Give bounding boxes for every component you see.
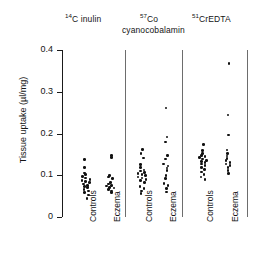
scatter-column-inulin-eczema — [110, 50, 111, 217]
data-point — [162, 163, 165, 166]
y-axis-tick-0.1 — [57, 175, 62, 176]
scatter-column-cyanocobalamin-controls — [142, 50, 143, 217]
data-point — [225, 159, 228, 162]
data-point — [113, 187, 116, 190]
data-point — [164, 177, 167, 180]
y-axis-tick-label-0: 0 — [23, 212, 53, 221]
data-point — [139, 179, 142, 182]
data-point — [227, 172, 230, 175]
data-point — [83, 191, 86, 194]
scatter-chart-figure: 14C inulin 57Co cyanocobalamin 51CrEDTA … — [0, 0, 260, 268]
data-point — [83, 188, 86, 191]
data-point — [164, 141, 167, 144]
scatter-column-cyanocobalamin-eczema — [166, 50, 167, 217]
x-axis-label-cyanocobalamin-eczema: Eczema — [169, 191, 178, 222]
data-point — [228, 62, 231, 65]
x-axis-label-inulin-eczema: Eczema — [113, 191, 122, 222]
x-axis-label-credta-eczema: Eczema — [231, 191, 240, 222]
data-point — [141, 148, 144, 151]
data-point — [140, 152, 143, 155]
group-separator-3 — [247, 50, 248, 217]
data-point — [198, 156, 201, 159]
data-point — [142, 157, 145, 160]
data-point — [165, 107, 168, 110]
group-header-credta-label: CrEDTA — [199, 14, 231, 24]
data-point — [227, 114, 230, 117]
x-axis-label-cyanocobalamin-controls: Controls — [145, 190, 154, 222]
data-point — [204, 155, 207, 158]
data-point — [105, 185, 108, 188]
data-point — [166, 136, 169, 139]
data-point — [143, 171, 146, 174]
data-point — [84, 173, 87, 176]
data-point — [203, 173, 206, 176]
scatter-column-inulin-controls — [86, 50, 87, 217]
group-header-credta: 51CrEDTA — [192, 14, 231, 24]
data-point — [83, 166, 86, 169]
data-point — [143, 181, 146, 184]
data-point — [86, 186, 89, 189]
data-point — [225, 163, 228, 166]
data-point — [226, 149, 229, 152]
scatter-column-credta-eczema — [228, 50, 229, 217]
data-point — [203, 168, 206, 171]
data-point — [140, 192, 143, 195]
y-axis-tick-0.4 — [57, 50, 62, 51]
data-point — [227, 169, 230, 172]
group-separator-1 — [125, 50, 126, 217]
data-point — [229, 161, 232, 164]
data-point — [204, 164, 207, 167]
data-point — [200, 176, 203, 179]
data-point — [166, 154, 169, 157]
data-point — [165, 187, 168, 190]
data-point — [139, 170, 142, 173]
data-point — [166, 169, 169, 172]
data-point — [137, 176, 140, 179]
data-point — [110, 156, 113, 159]
group-header-cyanocobalamin-line2: cyanocobalamin — [122, 25, 185, 35]
data-point — [163, 182, 166, 185]
y-axis-tick-0.3 — [57, 92, 62, 93]
data-point — [81, 179, 84, 182]
group-separator-2 — [182, 50, 183, 217]
data-point — [200, 166, 203, 169]
y-axis-spine — [62, 50, 63, 217]
data-point — [139, 166, 142, 169]
data-point — [202, 143, 205, 146]
group-header-cyanocobalamin-line1: 57Co — [140, 14, 158, 24]
data-point — [144, 174, 147, 177]
data-point — [165, 174, 168, 177]
x-axis-label-credta-controls: Controls — [206, 190, 215, 222]
data-point — [204, 178, 207, 181]
data-point — [83, 158, 86, 161]
group-header-inulin-label: C inulin — [72, 14, 101, 24]
scatter-column-credta-controls — [203, 50, 204, 217]
data-point — [227, 134, 230, 137]
y-axis-tick-0.2 — [57, 134, 62, 135]
data-point — [137, 172, 140, 175]
y-axis-tick-0 — [57, 217, 62, 218]
data-point — [164, 158, 167, 161]
x-axis-label-inulin-controls: Controls — [89, 190, 98, 222]
data-point — [141, 173, 144, 176]
data-point — [89, 178, 92, 181]
group-header-inulin: 14C inulin — [65, 14, 101, 24]
data-point — [139, 185, 142, 188]
data-point — [107, 176, 110, 179]
data-point — [84, 177, 87, 180]
data-point — [145, 178, 148, 181]
data-point — [200, 163, 203, 166]
y-axis-title: Tissue uptake (µl/mg) — [18, 50, 28, 190]
group-header-cyanocobalamin-label: Co — [147, 14, 158, 24]
data-point — [111, 177, 114, 180]
